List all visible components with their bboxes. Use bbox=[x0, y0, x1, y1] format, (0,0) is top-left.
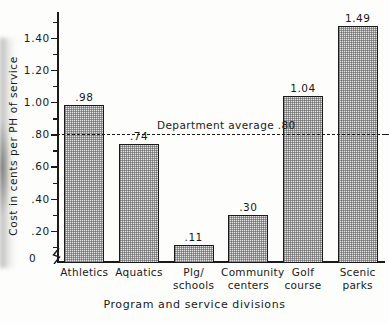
department-average-line-extension bbox=[385, 134, 389, 135]
plot-area: .20.40.60.801.001.201.40 .98.74.11.301.0… bbox=[57, 12, 385, 263]
bar-group[interactable]: 1.49 bbox=[338, 12, 378, 263]
y-tick-label: 1.00 bbox=[24, 96, 50, 108]
bar-value-label: .30 bbox=[239, 201, 257, 213]
x-category-label-line: course bbox=[276, 279, 331, 292]
x-category-label-line: Athletics bbox=[57, 266, 112, 279]
bar-group[interactable]: .30 bbox=[228, 12, 268, 263]
bar-chart-figure: .20.40.60.801.001.201.40 .98.74.11.301.0… bbox=[0, 0, 389, 323]
x-category-label[interactable]: Golfcourse bbox=[276, 266, 331, 291]
y-tick-label: .40 bbox=[31, 193, 50, 205]
y-axis-title: Cost in cents per PH of service bbox=[7, 36, 19, 256]
x-category-label-line: centers bbox=[221, 279, 276, 292]
y-tick-label: .80 bbox=[31, 128, 50, 140]
x-axis-title: Program and service divisions bbox=[0, 298, 389, 311]
department-average-line bbox=[57, 134, 385, 135]
bar[interactable] bbox=[119, 144, 159, 263]
bar-value-label: 1.49 bbox=[345, 12, 370, 24]
x-category-label-line: parks bbox=[330, 279, 385, 292]
bar-value-label: 1.04 bbox=[290, 82, 315, 94]
y-tick-label: 1.20 bbox=[24, 64, 50, 76]
axis-break-icon bbox=[50, 248, 64, 264]
x-category-label-line: Community bbox=[221, 266, 276, 279]
x-category-label-line: Plg/ bbox=[166, 266, 221, 279]
bar[interactable] bbox=[174, 245, 214, 263]
bar-value-label: .98 bbox=[75, 91, 93, 103]
bar-group[interactable]: .74 bbox=[119, 12, 159, 263]
x-category-label-line: Golf bbox=[276, 266, 331, 279]
x-category-label[interactable]: Scenicparks bbox=[330, 266, 385, 291]
x-category-label-line: schools bbox=[166, 279, 221, 292]
department-average-label: Department average .80 bbox=[157, 119, 296, 131]
x-category-label[interactable]: Communitycenters bbox=[221, 266, 276, 291]
y-axis-zero-label: 0 bbox=[29, 252, 36, 264]
bar-series: .98.74.11.301.041.49 bbox=[57, 12, 385, 263]
x-category-label-line: Scenic bbox=[330, 266, 385, 279]
bar-group[interactable]: .98 bbox=[64, 12, 104, 263]
bar-group[interactable]: 1.04 bbox=[283, 12, 323, 263]
x-axis-category-labels: AthleticsAquaticsPlg/schoolsCommunitycen… bbox=[57, 266, 385, 298]
bar-group[interactable]: .11 bbox=[174, 12, 214, 263]
y-tick-label: .20 bbox=[31, 225, 50, 237]
x-category-label[interactable]: Aquatics bbox=[112, 266, 167, 279]
x-category-label[interactable]: Athletics bbox=[57, 266, 112, 279]
bar[interactable] bbox=[64, 105, 104, 263]
bar[interactable] bbox=[338, 26, 378, 263]
x-category-label-line: Aquatics bbox=[112, 266, 167, 279]
bar[interactable] bbox=[228, 215, 268, 263]
bar-value-label: .11 bbox=[185, 231, 203, 243]
bar-value-label: .74 bbox=[130, 130, 148, 142]
y-tick-label: 1.40 bbox=[24, 32, 50, 44]
x-category-label[interactable]: Plg/schools bbox=[166, 266, 221, 291]
y-tick-label: .60 bbox=[31, 160, 50, 172]
